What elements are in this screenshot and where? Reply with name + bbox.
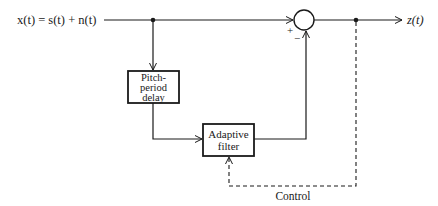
pitch-delay-line-3: delay — [142, 92, 165, 103]
control-feedback-path — [229, 22, 356, 186]
pitch-period-delay-block: Pitch- period delay — [128, 71, 179, 103]
adaptive-filter-block: Adaptive filter — [203, 124, 254, 156]
filter-to-summer-line — [254, 31, 306, 139]
plus-sign: + — [287, 24, 293, 36]
control-label: Control — [275, 190, 310, 202]
minus-sign: − — [294, 32, 300, 44]
summing-junction — [294, 10, 314, 30]
delay-to-filter-line — [153, 103, 202, 139]
input-signal-label: x(t) = s(t) + n(t) — [17, 13, 96, 27]
output-junction-dot — [354, 18, 359, 23]
output-signal-label: z(t) — [406, 13, 424, 27]
adaptive-filter-line-2: filter — [218, 140, 240, 152]
adaptive-noise-cancel-diagram: x(t) = s(t) + n(t) Pitch- period delay A… — [0, 0, 438, 206]
adaptive-filter-line-1: Adaptive — [208, 128, 248, 140]
